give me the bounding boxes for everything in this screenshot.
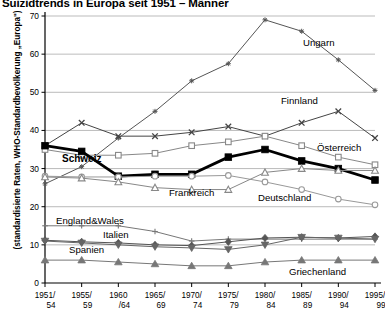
svg-text:60: 60 xyxy=(30,49,40,59)
svg-text:1985/: 1985/ xyxy=(291,291,312,300)
svg-text:1970/: 1970/ xyxy=(181,291,202,300)
svg-text:1960: 1960 xyxy=(109,291,128,300)
series-annotation-deutschland: Deutschland xyxy=(258,192,311,203)
chart-plot-area: 010203040506070 UngarnFinnlandÖsterreich… xyxy=(0,0,385,314)
svg-text:70: 70 xyxy=(30,11,40,21)
svg-text:79: 79 xyxy=(230,301,240,310)
series-annotation-spanien: Spanien xyxy=(69,244,104,255)
chart-container: Suizidtrends in Europa seit 1951 – Männe… xyxy=(0,0,385,314)
svg-text:20: 20 xyxy=(30,202,40,212)
x-axis-labels-layer: 1951/541955/591960/641965/691970/741975/… xyxy=(35,291,385,310)
series-annotation-italien: Italien xyxy=(103,229,129,240)
svg-text:1951/: 1951/ xyxy=(35,291,56,300)
svg-text:30: 30 xyxy=(30,164,40,174)
svg-text:40: 40 xyxy=(30,125,40,135)
svg-text:0: 0 xyxy=(34,278,39,288)
series-annotation--sterreich: Österreich xyxy=(317,142,361,153)
svg-text:84: 84 xyxy=(266,301,276,310)
svg-text:69: 69 xyxy=(156,301,166,310)
series-annotation-finnland: Finnland xyxy=(281,95,318,106)
svg-text:/64: /64 xyxy=(119,301,131,310)
svg-text:1990/: 1990/ xyxy=(328,291,349,300)
svg-text:59: 59 xyxy=(83,301,93,310)
svg-text:1975/: 1975/ xyxy=(218,291,239,300)
series-annotation-griechenland: Griechenland xyxy=(289,266,346,277)
svg-text:99: 99 xyxy=(376,301,385,310)
svg-text:74: 74 xyxy=(193,301,203,310)
series-annotation-schweiz: Schweiz xyxy=(62,153,101,164)
series-annotation-england-wales: England&Wales xyxy=(56,215,124,226)
svg-text:89: 89 xyxy=(303,301,313,310)
svg-text:1965/: 1965/ xyxy=(145,291,166,300)
svg-text:1955/: 1955/ xyxy=(71,291,92,300)
svg-text:1980/: 1980/ xyxy=(255,291,276,300)
svg-text:50: 50 xyxy=(30,87,40,97)
svg-text:10: 10 xyxy=(30,240,40,250)
svg-text:94: 94 xyxy=(340,301,350,310)
series-annotation-frankreich: Frankreich xyxy=(169,187,214,198)
series-england-wales xyxy=(42,223,378,244)
series-annotation-ungarn: Ungarn xyxy=(303,37,334,48)
svg-text:1995/: 1995/ xyxy=(365,291,385,300)
svg-text:54: 54 xyxy=(46,301,56,310)
